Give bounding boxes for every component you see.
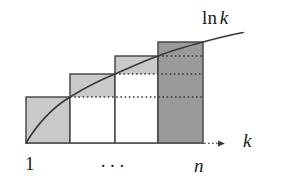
x-tick-label-last: n: [194, 156, 204, 175]
curve-label-variable: k: [220, 7, 228, 28]
bar-1-group: [26, 97, 70, 143]
ln-k-step-figure: [0, 0, 284, 190]
bar-3-group: [115, 56, 158, 143]
bar-4-group: [158, 42, 203, 143]
bar-4-fill: [158, 42, 203, 143]
x-tick-label-ellipsis: ···: [100, 156, 128, 175]
x-tick-label-first: 1: [25, 154, 35, 173]
x-axis-label-k: k: [243, 131, 251, 150]
curve-label-ln-k: lnk: [202, 8, 228, 27]
curve-label-operator: ln: [202, 7, 217, 28]
bar-1-fill: [26, 97, 70, 143]
figure-container: lnk k 1 ··· n: [0, 0, 284, 190]
